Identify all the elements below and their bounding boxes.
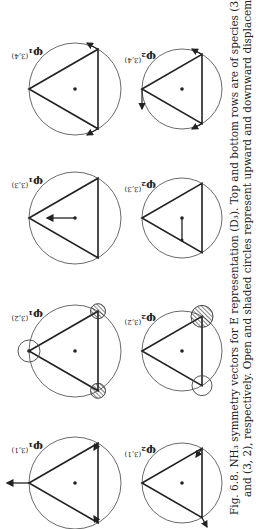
svg-text:φ₁(3,3): φ₁(3,3) [11,175,43,189]
panel-bottom-3-3: φ₂(3,3) [124,178,222,258]
svg-text:φ₁(3,4): φ₁(3,4) [11,46,43,60]
panel-top-3-2: φ₁(3,2) [11,304,121,399]
svg-text:φ₂(3,1): φ₂(3,1) [124,444,156,458]
panel-top-3-1: φ₁(3,1) [7,437,121,529]
panel-bottom-3-4: φ₂(3,4) [124,49,222,129]
panel-bottom-3-1: φ₂(3,1) [124,443,222,527]
panel-top-3-4: φ₁(3,4) [11,43,121,135]
svg-text:φ₁(3,1): φ₁(3,1) [11,440,43,454]
svg-text:φ₂(3,2): φ₂(3,2) [124,312,156,326]
svg-text:φ₂(3,4): φ₂(3,4) [124,50,156,64]
figure-caption-line-1: Fig. 6.8. NH₃ symmetry vectors for E rep… [228,10,241,515]
svg-text:φ₂(3,3): φ₂(3,3) [124,179,156,193]
panel-bottom-3-2: φ₂(3,2) [124,305,222,395]
svg-text:φ₁(3,2): φ₁(3,2) [11,308,43,322]
figure-caption-line-2: and (3, 2), respectively. Open and shade… [241,0,254,497]
panel-top-3-3: φ₁(3,3) [11,172,121,264]
figure-6-8: φ₁(3,1) φ₁(3,2) φ₁(3,3) φ₁(3,4) φ₂(3,1) [0,0,262,529]
symmetry-vector-diagrams: φ₁(3,1) φ₁(3,2) φ₁(3,3) φ₁(3,4) φ₂(3,1) [0,0,262,529]
